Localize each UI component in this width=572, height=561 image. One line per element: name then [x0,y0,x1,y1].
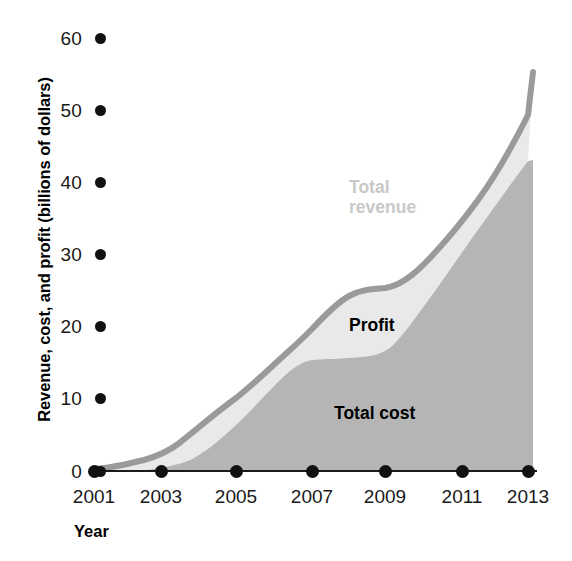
x-tick-label-2009: 2009 [350,486,420,508]
y-tick-50-dot [95,105,106,116]
y-tick-20: 20 [34,315,106,337]
y-tick-40: 40 [34,171,106,193]
total-cost-area [94,160,533,471]
x-tick-label-2005: 2005 [201,486,271,508]
x-tick-dot-2007 [306,465,319,478]
series-label-total-cost: Total cost [334,403,415,423]
x-tick-dot-2005 [230,465,243,478]
x-tick-dot-2011 [456,465,469,478]
series-label-profit: Profit [349,315,395,335]
y-tick-40-dot [95,177,106,188]
y-tick-50: 50 [34,99,106,121]
series-label-total-revenue-line1: Total [349,177,416,197]
series-label-total-revenue-line2: revenue [349,197,416,217]
x-tick-label-2011: 2011 [427,486,497,508]
y-tick-30-dot [95,249,106,260]
x-tick-label-2013: 2013 [493,486,563,508]
x-axis-title: Year [74,522,109,541]
y-tick-20-dot [95,321,106,332]
y-tick-60-dot [95,33,106,44]
y-tick-40-label: 40 [61,172,82,194]
y-tick-10-label: 10 [61,388,82,410]
x-tick-dot-2003 [155,465,168,478]
area-chart-figure: Revenue, cost, and profit (billions of d… [0,0,572,561]
y-tick-20-label: 20 [61,316,82,338]
y-tick-50-label: 50 [61,100,82,122]
x-tick-label-2001: 2001 [59,486,129,508]
series-label-total-revenue: Total revenue [349,177,416,218]
y-tick-10: 10 [34,387,106,409]
x-tick-label-2007: 2007 [277,486,347,508]
x-tick-dot-2013 [522,465,535,478]
y-tick-10-dot [95,393,106,404]
y-tick-30-label: 30 [61,244,82,266]
x-tick-dot-2001 [88,465,101,478]
y-tick-60-label: 60 [61,28,82,50]
y-tick-0-label: 0 [71,461,82,483]
y-tick-60: 60 [34,27,106,49]
x-tick-dot-2009 [379,465,392,478]
x-tick-label-2003: 2003 [126,486,196,508]
y-tick-30: 30 [34,243,106,265]
